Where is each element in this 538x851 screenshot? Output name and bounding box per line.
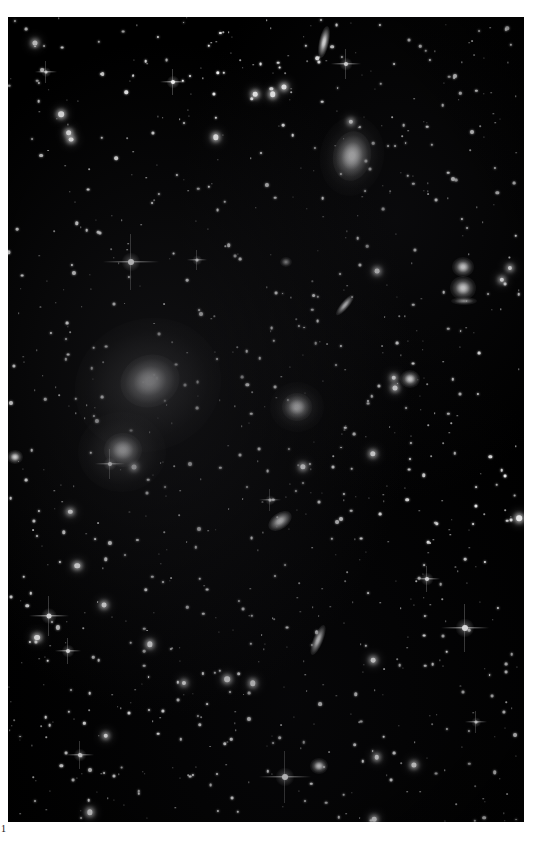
star xyxy=(319,342,320,343)
star xyxy=(453,77,455,79)
star xyxy=(234,406,235,407)
star xyxy=(421,298,422,299)
star xyxy=(58,112,64,118)
star xyxy=(477,351,480,354)
star xyxy=(505,671,508,674)
star xyxy=(335,23,338,26)
diffraction-spike-horizontal xyxy=(35,71,57,72)
star xyxy=(278,66,281,69)
star xyxy=(416,330,417,331)
star xyxy=(394,432,395,433)
star xyxy=(411,599,412,600)
star-halo xyxy=(104,458,117,471)
star xyxy=(446,728,448,730)
star xyxy=(273,340,275,342)
star xyxy=(420,791,422,793)
star xyxy=(156,164,157,165)
star xyxy=(176,174,178,176)
star xyxy=(344,429,345,430)
star xyxy=(445,620,447,622)
star xyxy=(272,498,275,501)
star xyxy=(228,31,230,33)
star xyxy=(113,257,114,258)
star xyxy=(197,527,201,531)
star xyxy=(506,26,510,30)
star xyxy=(219,32,221,34)
star xyxy=(92,346,95,349)
star xyxy=(393,63,395,65)
star xyxy=(157,732,160,735)
star xyxy=(400,608,402,610)
star xyxy=(276,526,277,527)
star xyxy=(152,720,154,722)
star xyxy=(319,56,321,58)
star xyxy=(382,208,385,211)
star xyxy=(255,207,256,208)
bright-star-left-mid xyxy=(55,638,81,664)
star xyxy=(354,539,355,540)
star xyxy=(454,452,456,454)
bright-star-upper-mid xyxy=(441,604,489,652)
star xyxy=(23,362,24,363)
star xyxy=(409,442,411,444)
star-halo xyxy=(121,252,140,271)
star xyxy=(166,496,167,497)
star xyxy=(407,468,410,471)
star xyxy=(500,309,501,310)
star xyxy=(391,376,396,381)
star xyxy=(289,528,290,529)
star xyxy=(411,262,413,264)
star xyxy=(86,229,89,232)
star xyxy=(42,546,43,547)
star xyxy=(192,774,194,776)
star xyxy=(406,174,409,177)
star xyxy=(461,690,464,693)
star xyxy=(462,235,463,236)
star xyxy=(500,278,504,282)
star xyxy=(359,559,360,560)
star xyxy=(178,514,180,516)
star xyxy=(223,201,226,204)
star xyxy=(147,818,148,819)
star xyxy=(509,257,510,258)
star xyxy=(43,469,44,470)
star xyxy=(362,75,363,76)
star xyxy=(515,445,516,446)
star xyxy=(149,431,151,433)
star xyxy=(32,519,35,522)
star xyxy=(49,645,51,647)
star xyxy=(40,68,44,72)
star xyxy=(495,484,498,487)
star xyxy=(66,130,72,136)
star xyxy=(163,400,165,402)
star xyxy=(132,151,134,153)
star xyxy=(472,712,474,714)
star xyxy=(428,552,430,554)
star xyxy=(387,145,389,147)
star xyxy=(391,116,393,118)
lenticular-galaxy-upper-right-halo xyxy=(314,111,391,201)
star xyxy=(32,41,37,46)
star xyxy=(53,490,54,491)
star xyxy=(125,91,129,95)
star xyxy=(81,773,82,774)
diffraction-spike-horizontal xyxy=(441,627,489,628)
star xyxy=(340,345,342,347)
star xyxy=(363,665,364,666)
star xyxy=(489,27,491,29)
star xyxy=(464,558,467,561)
star xyxy=(475,90,477,92)
star xyxy=(383,668,385,670)
star xyxy=(209,746,211,748)
star xyxy=(111,616,112,617)
star xyxy=(200,479,202,481)
star xyxy=(320,19,322,21)
edge-on-spiral-galaxy-lower xyxy=(307,623,328,656)
star xyxy=(120,707,121,708)
star xyxy=(266,470,269,473)
star xyxy=(371,395,374,398)
star xyxy=(147,478,150,481)
star xyxy=(383,501,385,503)
star xyxy=(471,40,473,42)
star xyxy=(182,681,186,685)
